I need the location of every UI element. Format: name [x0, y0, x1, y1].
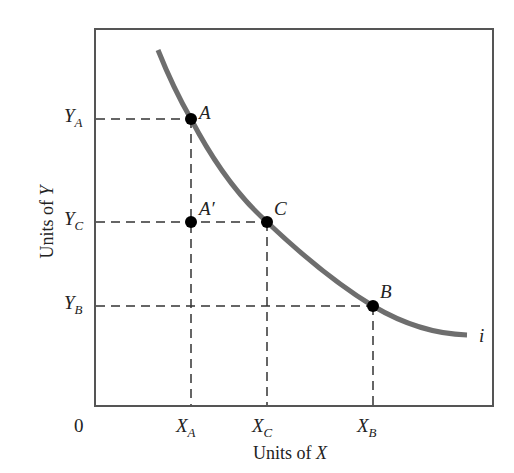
y-tick-ya: YA — [64, 105, 83, 130]
point-c-label: C — [274, 198, 287, 219]
point-b — [367, 300, 379, 312]
y-tick-yb: YB — [64, 292, 83, 317]
x-tick-xa: XA — [175, 415, 196, 440]
x-tick-xb: XB — [356, 415, 377, 440]
point-c — [261, 216, 273, 228]
x-axis-title: Units of X — [253, 443, 328, 463]
point-a — [185, 113, 197, 125]
y-axis-title: Units of Y — [37, 184, 57, 259]
curve-label: i — [479, 325, 484, 346]
point-a-label: A — [197, 102, 211, 123]
origin-label: 0 — [74, 415, 84, 436]
y-tick-yc: YC — [64, 208, 84, 233]
plot-frame — [95, 29, 493, 406]
x-tick-xc: XC — [251, 415, 273, 440]
indifference-curve-diagram: A A′ C B i YA YC YB XA XC XB 0 Units of … — [0, 0, 514, 473]
point-b-label: B — [380, 281, 392, 302]
indifference-curve — [158, 50, 467, 335]
point-a-prime — [185, 216, 197, 228]
point-a-prime-label: A′ — [197, 198, 216, 219]
guide-lines — [96, 119, 373, 405]
